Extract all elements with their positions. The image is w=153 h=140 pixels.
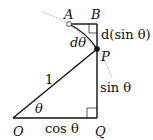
label-B: B	[90, 7, 101, 22]
label-P: P	[100, 49, 110, 64]
unit-circle-diagram: A B P O Q 1 θ cos θ sin θ dθ d(sin θ)	[0, 0, 153, 140]
label-sin: sin θ	[100, 80, 131, 95]
point-A	[67, 22, 72, 27]
label-hypotenuse: 1	[45, 72, 53, 87]
hypotenuse-OP	[13, 49, 97, 118]
label-dsin: d(sin θ)	[101, 27, 151, 42]
point-P	[94, 46, 100, 52]
right-angle-B	[89, 24, 97, 33]
label-O: O	[13, 124, 24, 139]
label-dtheta: dθ	[70, 35, 86, 50]
label-theta: θ	[35, 101, 43, 116]
right-angle-Q	[87, 108, 97, 118]
label-A: A	[63, 7, 73, 22]
label-cos: cos θ	[45, 121, 79, 136]
label-Q: Q	[95, 124, 106, 139]
